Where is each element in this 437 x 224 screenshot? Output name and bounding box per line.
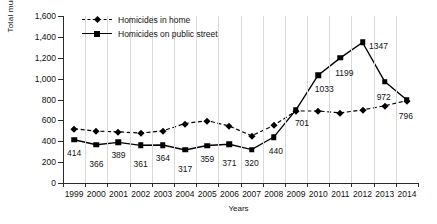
legend-item-homicides-on-public-street: Homicides on public street [82,28,218,40]
gridline-vertical [396,16,397,183]
x-tick-mark [263,183,264,187]
gridline-vertical [241,16,242,183]
x-tick-2008: 2008 [264,189,283,199]
data-label-1-2000: 366 [89,159,103,169]
legend-key-solid-square-icon [82,29,112,39]
chart-container: Total murders 02004006008001,0001,2001,4… [0,0,437,224]
y-tick-mark [58,16,63,17]
legend-label-0: Homicides in home [118,15,190,25]
x-tick-mark [418,183,419,187]
y-tick-mark [58,100,63,101]
data-label-1-2006: 371 [222,158,236,168]
gridline-vertical [263,16,264,183]
y-tick-600: 600 [42,115,56,125]
data-label-1-2002: 361 [134,159,148,169]
x-tick-mark [396,183,397,187]
data-label-1-2007: 320 [245,158,259,168]
x-tick-2002: 2002 [131,189,150,199]
y-tick-1200: 1,200 [35,53,56,63]
x-tick-2013: 2013 [375,189,394,199]
y-tick-mark [58,58,63,59]
data-label-1-2013: 972 [377,92,391,102]
y-tick-800: 800 [42,95,56,105]
x-tick-2000: 2000 [87,189,106,199]
x-tick-2011: 2011 [331,189,349,199]
x-tick-2003: 2003 [153,189,172,199]
y-tick-1600: 1,600 [35,11,56,21]
data-point-1-2013 [382,79,388,85]
data-point-1-2012 [360,40,366,46]
x-tick-mark [85,183,86,187]
x-tick-mark [351,183,352,187]
data-point-1-1999 [71,137,77,143]
data-point-1-2005 [204,143,210,149]
x-tick-mark [374,183,375,187]
x-tick-mark [307,183,308,187]
data-point-1-2014 [404,97,410,103]
data-label-1-2005: 359 [200,154,214,164]
data-point-1-2000 [94,142,100,148]
x-axis-title-wrap: Years [0,204,437,213]
x-tick-mark [285,183,286,187]
data-label-1-2010: 1033 [315,84,334,94]
x-tick-2006: 2006 [220,189,239,199]
x-tick-mark [174,183,175,187]
x-tick-2010: 2010 [309,189,328,199]
data-point-1-2001 [116,140,122,146]
x-tick-2014: 2014 [397,189,416,199]
data-label-1-2009: 701 [295,118,309,128]
data-label-1-1999: 414 [67,148,81,158]
x-tick-mark [241,183,242,187]
x-tick-mark [107,183,108,187]
x-tick-1999: 1999 [65,189,84,199]
data-label-1-2014: 796 [399,111,413,121]
y-axis-title-wrap: Total murders [4,0,18,184]
y-tick-mark [58,120,63,121]
x-tick-2007: 2007 [242,189,261,199]
y-tick-0: 0 [51,178,56,188]
data-point-1-2006 [227,142,233,148]
data-point-1-2004 [182,147,188,153]
data-label-1-2011: 1199 [335,68,353,78]
gridline-vertical [329,16,330,183]
x-tick-2009: 2009 [287,189,306,199]
x-tick-mark [196,183,197,187]
data-label-1-2008: 440 [269,146,283,156]
gridline-vertical [285,16,286,183]
x-tick-mark [130,183,131,187]
y-tick-1400: 1,400 [35,32,56,42]
data-label-1-2004: 317 [178,164,192,174]
x-tick-mark [329,183,330,187]
legend-label-1: Homicides on public street [118,29,218,39]
y-tick-400: 400 [42,136,56,146]
data-label-1-2001: 389 [111,150,125,160]
x-tick-mark [152,183,153,187]
gridline-vertical [218,16,219,183]
gridline-vertical [307,16,308,183]
data-point-1-2002 [138,143,144,149]
data-label-1-2003: 364 [156,153,170,163]
y-tick-mark [58,79,63,80]
data-point-1-2008 [271,134,277,140]
x-tick-2005: 2005 [198,189,217,199]
x-tick-mark [63,183,64,187]
y-tick-200: 200 [42,157,56,167]
data-point-1-2009 [293,107,299,113]
data-label-1-2012: 1347 [369,41,388,51]
data-point-1-2003 [160,142,166,148]
y-axis-tick-labels: 02004006008001,0001,2001,4001,600 [18,0,56,224]
y-tick-mark [58,37,63,38]
gridline-vertical [351,16,352,183]
legend-item-homicides-in-home: Homicides in home [82,14,218,26]
y-axis-title: Total murders [6,0,15,52]
x-tick-2012: 2012 [353,189,372,199]
x-tick-2004: 2004 [176,189,195,199]
y-tick-1000: 1,000 [35,74,56,84]
data-point-1-2007 [249,147,255,153]
y-tick-mark [58,162,63,163]
chart-legend: Homicides in home Homicides on public st… [82,14,218,42]
x-axis-title: Years [228,204,248,213]
data-point-1-2011 [338,55,344,61]
y-tick-mark [58,141,63,142]
x-tick-mark [218,183,219,187]
